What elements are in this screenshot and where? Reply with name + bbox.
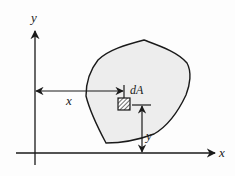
x-dimension-label: x	[65, 93, 72, 108]
y-dimension-label: y	[144, 128, 152, 143]
y-axis-label: y	[29, 10, 37, 25]
diagram-svg: y x dA x y	[0, 0, 235, 176]
element-label: dA	[130, 83, 144, 97]
diagram-canvas: y x dA x y	[0, 0, 235, 176]
x-axis-label: x	[218, 145, 225, 160]
area-element-dA	[118, 98, 130, 110]
